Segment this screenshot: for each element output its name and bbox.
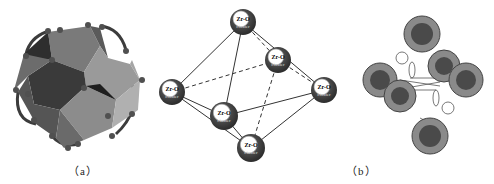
cluster-top xyxy=(404,16,440,52)
node-bottom: Zr-O cluster xyxy=(237,134,265,162)
node-top: Zr-O cluster xyxy=(230,9,256,35)
caption-a: （a） xyxy=(68,162,98,178)
svg-text:cluster: cluster xyxy=(165,94,179,99)
node-left: Zr-O cluster xyxy=(159,79,185,105)
svg-text:cluster: cluster xyxy=(217,118,231,123)
framework-packing-image xyxy=(340,0,494,184)
svg-text:Zr-O: Zr-O xyxy=(271,54,284,60)
svg-text:Zr-O: Zr-O xyxy=(317,84,330,90)
svg-text:Zr-O: Zr-O xyxy=(165,86,178,92)
svg-text:Zr-O: Zr-O xyxy=(236,16,249,22)
panel-c-framework-packing xyxy=(340,0,494,184)
octahedron-diagram: Zr-O cluster Zr-O cluster Zr-O cluster Z… xyxy=(150,0,350,184)
svg-text:Zr-O: Zr-O xyxy=(217,110,230,116)
panel-a-cluster-polyhedron xyxy=(0,0,160,184)
svg-text:cluster: cluster xyxy=(317,92,331,97)
node-front: Zr-O cluster xyxy=(210,102,238,130)
svg-text:Zr-O: Zr-O xyxy=(244,142,257,148)
node-right: Zr-O cluster xyxy=(311,77,337,103)
svg-text:cluster: cluster xyxy=(244,150,258,155)
cluster-polyhedron-image xyxy=(0,0,160,160)
svg-text:cluster: cluster xyxy=(236,24,250,29)
cluster-left xyxy=(363,63,416,112)
cluster-bottom xyxy=(412,118,448,154)
node-back-right: Zr-O cluster xyxy=(265,47,291,73)
panel-b-octahedron-diagram: Zr-O cluster Zr-O cluster Zr-O cluster Z… xyxy=(150,0,350,184)
dashed-edges xyxy=(172,22,324,148)
svg-text:cluster: cluster xyxy=(271,62,285,67)
